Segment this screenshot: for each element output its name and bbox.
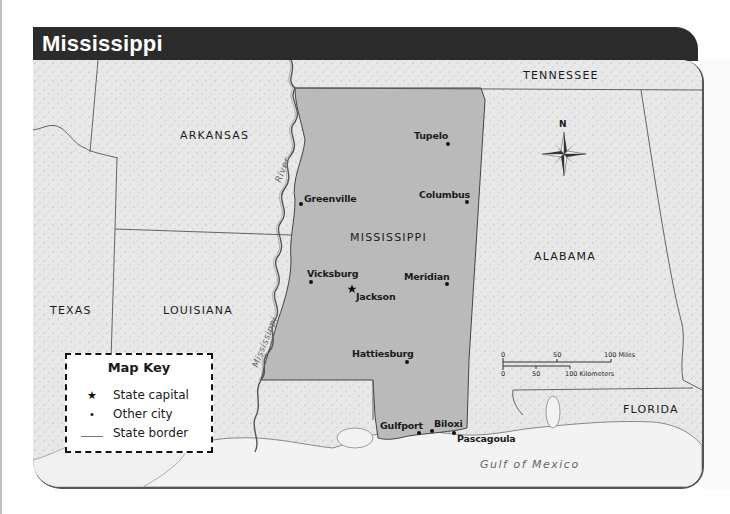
columbus-dot: [465, 200, 469, 204]
map-key-label-capital: State capital: [113, 388, 189, 402]
meridian-dot: [445, 282, 449, 286]
city-meridian: Meridian: [404, 271, 449, 282]
greenville-dot: [299, 202, 303, 206]
border-line-icon: [77, 427, 107, 439]
lake-pontchartrain: [337, 428, 373, 448]
scale-km-0: 0: [501, 370, 505, 378]
city-gulfport: Gulfport: [380, 420, 423, 431]
dot-icon: •: [77, 408, 107, 420]
page-right-margin: [702, 60, 730, 490]
mobile-bay: [546, 396, 560, 428]
map-key-title: Map Key: [67, 360, 211, 375]
label-texas: TEXAS: [50, 304, 92, 317]
city-greenville: Greenville: [304, 193, 357, 204]
city-jackson: Jackson: [356, 291, 395, 302]
star-icon: ★: [77, 389, 107, 402]
map-key-item-capital: ★ State capital: [77, 386, 189, 404]
scale-km-50: 50: [532, 370, 540, 378]
label-arkansas: ARKANSAS: [180, 129, 249, 142]
title-bar: Mississippi: [33, 27, 698, 61]
map-key-label-city: Other city: [113, 407, 173, 421]
gulfport-dot: [417, 431, 421, 435]
city-tupelo: Tupelo: [414, 130, 448, 141]
tupelo-dot: [446, 142, 450, 146]
hattiesburg-dot: [405, 360, 409, 364]
label-tennessee: TENNESSEE: [523, 69, 599, 82]
map-key: Map Key ★ State capital • Other city Sta…: [65, 353, 213, 453]
pascagoula-dot: [452, 431, 456, 435]
vicksburg-dot: [309, 280, 313, 284]
page-left-edge: [0, 0, 2, 514]
label-florida: FLORIDA: [623, 403, 679, 416]
city-biloxi: Biloxi: [434, 418, 462, 429]
map-title: Mississippi: [42, 31, 163, 57]
label-gulf-of-mexico: Gulf of Mexico: [480, 458, 580, 471]
map-frame: TENNESSEE ARKANSAS MISSISSIPPI ALABAMA L…: [33, 60, 704, 489]
scale-miles-0: 0: [501, 351, 505, 359]
scale-miles-50: 50: [553, 351, 561, 359]
scale-km-100: 100 Kilometers: [565, 370, 614, 378]
city-columbus: Columbus: [419, 189, 470, 200]
label-louisiana: LOUISIANA: [163, 304, 233, 317]
map-key-item-border: State border: [77, 424, 188, 442]
map-key-label-border: State border: [113, 426, 188, 440]
label-alabama: ALABAMA: [534, 250, 596, 263]
scale-miles-100: 100 Miles: [604, 351, 635, 359]
city-vicksburg: Vicksburg: [307, 268, 358, 279]
compass-north-label: N: [559, 119, 567, 129]
label-mississippi: MISSISSIPPI: [350, 231, 427, 244]
biloxi-dot: [430, 429, 434, 433]
city-pascagoula: Pascagoula: [457, 433, 516, 444]
city-hattiesburg: Hattiesburg: [352, 348, 414, 359]
map-key-item-city: • Other city: [77, 405, 173, 423]
